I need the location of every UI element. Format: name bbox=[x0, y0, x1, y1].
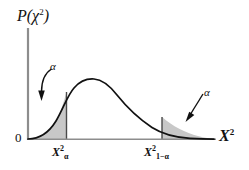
x-axis-label: X2 bbox=[219, 128, 234, 144]
origin-label: 0 bbox=[15, 131, 22, 144]
tick-label-lower-critical-value: X2α bbox=[52, 145, 68, 161]
tick-label-upper-subscript: 1−α bbox=[156, 152, 169, 161]
y-axis-label-prefix: P( bbox=[17, 7, 32, 24]
right-alpha-label: α bbox=[204, 87, 210, 98]
left-alpha-arrowhead bbox=[38, 91, 45, 102]
y-axis-label: P(χ2) bbox=[17, 8, 49, 24]
left-alpha-label: α bbox=[50, 61, 56, 72]
right-alpha-arrow bbox=[190, 94, 203, 115]
x-axis-label-exponent: 2 bbox=[230, 127, 235, 137]
tick-label-lower-variable: X bbox=[52, 145, 60, 159]
tick-label-upper-critical-value: X21−α bbox=[144, 145, 169, 161]
tick-label-upper-variable: X bbox=[144, 145, 152, 159]
tick-label-lower-subscript: α bbox=[64, 152, 68, 161]
plot-area bbox=[0, 0, 249, 170]
y-axis-label-suffix: ) bbox=[44, 7, 49, 24]
right-alpha-arrowhead bbox=[186, 112, 195, 122]
x-axis-label-variable: X bbox=[219, 127, 230, 144]
chi-square-distribution-figure: P(χ2) X2 0 X2α X21−α α α bbox=[0, 0, 249, 170]
left-alpha-arrow bbox=[42, 69, 52, 92]
